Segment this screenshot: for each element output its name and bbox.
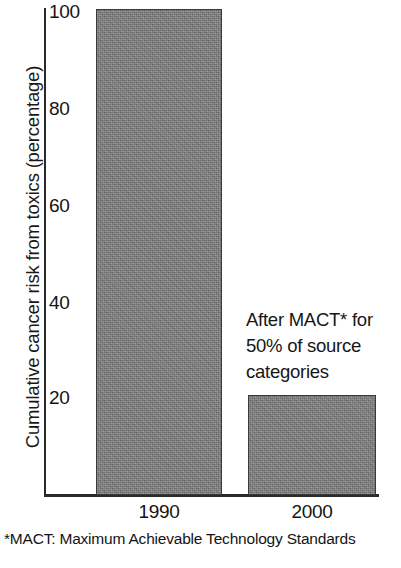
x-tick-label-2000: 2000 [248,501,376,523]
annotation-line-3: categories [246,359,401,385]
bar-1990 [96,9,222,495]
y-tick-label-60: 60 [49,196,70,215]
y-axis-line [44,8,46,496]
y-tick-label-40: 40 [49,293,70,312]
annotation-line-1: After MACT* for [246,307,401,333]
y-tick-label-80: 80 [49,99,70,118]
y-axis-title: Cumulative cancer risk from toxics (perc… [22,12,44,502]
chart-annotation: After MACT* for 50% of source categories [246,307,401,385]
y-tick-label-20: 20 [49,388,70,407]
x-tick-label-1990: 1990 [96,501,222,523]
annotation-line-2: 50% of source [246,333,401,359]
y-tick-label-100: 100 [49,2,80,21]
chart-footnote: *MACT: Maximum Achievable Technology Sta… [4,529,356,548]
bar-2000 [248,395,376,495]
bar-chart-figure: Cumulative cancer risk from toxics (perc… [0,0,401,568]
